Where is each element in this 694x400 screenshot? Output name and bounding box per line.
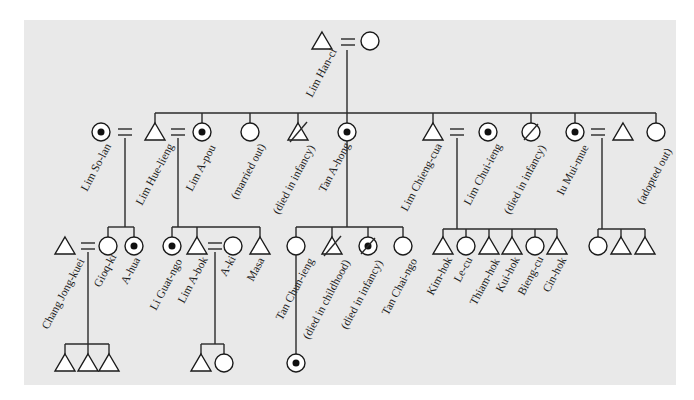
label-le-cu: Le-cu xyxy=(451,254,474,284)
label-died-in-infancy-2: (died in infancy) xyxy=(501,142,549,216)
female-symbol-icon xyxy=(394,237,412,255)
gen2-row: Lim So-lan Lim Hue-lieng Lim A-pou (marr… xyxy=(78,122,674,216)
deceased-male-icon xyxy=(322,237,342,254)
male-symbol-icon xyxy=(312,32,332,49)
label-adopted-out: (adopted out) xyxy=(634,146,674,207)
male-symbol-icon xyxy=(145,123,165,140)
female-symbol-icon xyxy=(287,237,305,255)
male-symbol-icon xyxy=(55,354,75,371)
label-lim-han-ci: Lim Han-ci xyxy=(303,46,339,99)
female-symbol-icon xyxy=(361,32,379,50)
dotted-female-icon xyxy=(163,237,181,255)
marriage-equals-icon xyxy=(341,39,355,45)
label-lim-a-pou: Lim A-pou xyxy=(183,142,218,193)
female-symbol-icon xyxy=(589,237,607,255)
label-lim-hue-lieng: Lim Hue-lieng xyxy=(133,141,177,207)
dotted-female-icon xyxy=(287,354,305,372)
kinship-diagram: Lim Han-ci Lim So-lan Lim Hue-lieng Lim … xyxy=(0,0,694,400)
marriage-equals-icon xyxy=(208,243,222,249)
male-symbol-icon xyxy=(611,237,631,254)
male-symbol-icon xyxy=(479,237,499,254)
male-symbol-icon xyxy=(250,237,270,254)
deceased-male-icon xyxy=(288,123,308,140)
dotted-female-icon xyxy=(479,123,497,141)
label-married-out: (married out) xyxy=(228,141,268,201)
male-symbol-icon xyxy=(55,237,75,254)
label-lim-chui-ieng: Lim Chui-ieng xyxy=(461,141,505,207)
label-masa: Masa xyxy=(244,255,266,283)
marriage-equals-icon xyxy=(118,129,132,135)
label-died-in-infancy: (died in infancy) xyxy=(270,142,318,216)
marriage-equals-icon xyxy=(450,129,464,135)
female-symbol-icon xyxy=(241,123,259,141)
gen4-row xyxy=(55,354,305,372)
female-symbol-icon xyxy=(647,123,665,141)
male-symbol-icon xyxy=(191,354,211,371)
marriage-equals-icon xyxy=(81,243,95,249)
dotted-female-icon xyxy=(193,123,211,141)
male-symbol-icon xyxy=(187,237,207,254)
male-symbol-icon xyxy=(635,237,655,254)
label-kim-hok: Kim-hok xyxy=(424,254,454,297)
female-symbol-icon xyxy=(215,354,233,372)
female-symbol-icon xyxy=(457,237,475,255)
dotted-female-icon xyxy=(125,237,143,255)
label-lim-so-lan: Lim So-lan xyxy=(78,141,113,193)
male-symbol-icon xyxy=(99,354,119,371)
female-symbol-icon xyxy=(526,237,544,255)
male-symbol-icon xyxy=(423,123,443,140)
male-symbol-icon xyxy=(502,237,522,254)
dotted-female-icon xyxy=(566,123,584,141)
label-li-guat-ngo: Li Guat-ngo xyxy=(147,256,185,312)
male-symbol-icon xyxy=(613,123,633,140)
label-tan-chai-ngo: Tan Chai-ngo xyxy=(379,256,420,318)
marriage-equals-icon xyxy=(171,129,185,135)
gen3-row: Chang Jong-kuei Gioq-ki A-hua Li Guat-ng… xyxy=(39,236,655,341)
label-chang-jong-kuei: Chang Jong-kuei xyxy=(39,256,87,331)
female-symbol-icon xyxy=(224,237,242,255)
gen1-couple: Lim Han-ci xyxy=(303,32,379,113)
label-iu-mui-mue: Iu Mui-mue xyxy=(554,143,591,197)
label-a-ki: A-ki xyxy=(217,254,237,278)
male-symbol-icon xyxy=(433,237,453,254)
male-symbol-icon xyxy=(78,354,98,371)
dotted-female-icon xyxy=(92,123,110,141)
label-tan-a-hong: Tan A-hong xyxy=(316,140,353,194)
label-tan-chun-ieng: Tan Chun-ieng xyxy=(273,256,317,323)
label-a-hua: A-hua xyxy=(118,255,142,286)
dotted-female-icon xyxy=(338,123,356,141)
marriage-equals-icon xyxy=(591,129,605,135)
label-gioq-ki: Gioq-ki xyxy=(91,252,119,290)
male-symbol-icon xyxy=(547,237,567,254)
label-lim-chieng-cua: Lim Chieng-cua xyxy=(398,141,445,213)
